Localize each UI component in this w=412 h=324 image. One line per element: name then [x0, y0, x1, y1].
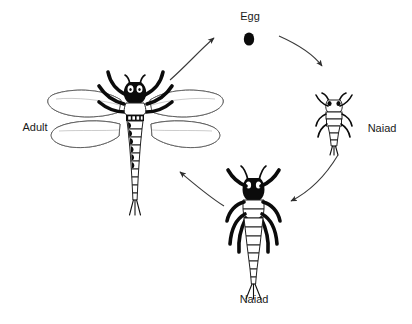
- dragonfly-head: [124, 82, 147, 103]
- label-adult: Adult: [22, 121, 47, 133]
- dragonfly-life-cycle-diagram: Egg Naiad Naiad Adult: [0, 0, 412, 324]
- dragonfly-thorax: [124, 103, 146, 121]
- egg-oval-icon: [244, 32, 254, 45]
- label-naiad-early: Naiad: [368, 122, 397, 134]
- label-egg: Egg: [240, 10, 260, 22]
- diagram-canvas: Egg Naiad Naiad Adult: [0, 0, 412, 324]
- canvas-background: [0, 0, 412, 324]
- label-naiad-late: Naiad: [240, 293, 269, 305]
